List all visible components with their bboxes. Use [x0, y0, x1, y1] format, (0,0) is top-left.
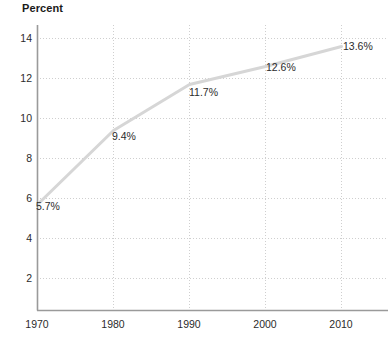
data-label-1980: 9.4%: [112, 131, 136, 142]
x-tick-label-1980: 1980: [90, 319, 136, 330]
data-label-2010: 13.6%: [343, 41, 373, 52]
x-tick-label-2000: 2000: [242, 319, 288, 330]
y-tick-label-6: 6: [6, 193, 32, 204]
chart-container: Percent 14 12 10 8 6 4 2 1970 1: [0, 0, 388, 339]
x-tick-label-2010: 2010: [318, 319, 364, 330]
y-tick-label-4: 4: [6, 233, 32, 244]
y-tick-label-14: 14: [6, 33, 32, 44]
data-label-1990: 11.7%: [189, 87, 218, 98]
y-tick-label-12: 12: [6, 73, 32, 84]
y-tick-label-10: 10: [6, 113, 32, 124]
data-label-1970: 5.7%: [36, 201, 60, 212]
x-tick-label-1990: 1990: [166, 319, 212, 330]
y-tick-label-8: 8: [6, 153, 32, 164]
vertical-gridlines: [114, 25, 342, 310]
x-tick-label-1970: 1970: [14, 319, 60, 330]
y-tick-label-2: 2: [6, 273, 32, 284]
chart-plot-area: [0, 0, 388, 339]
data-label-2000: 12.6%: [266, 62, 296, 73]
horizontal-gridlines: [37, 39, 388, 279]
